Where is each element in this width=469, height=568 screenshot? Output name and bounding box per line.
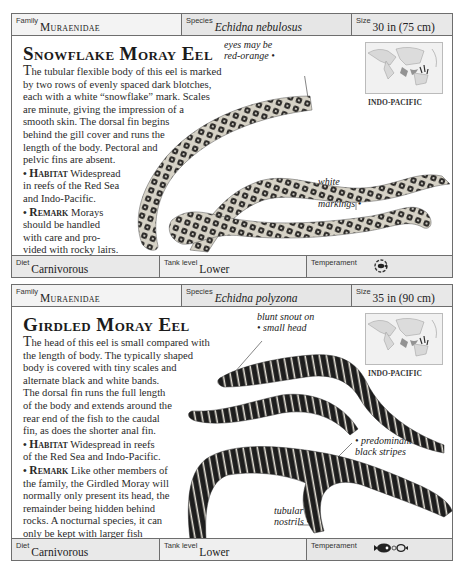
diet-value: Carnivorous: [31, 263, 88, 275]
habitat-label: Habitat: [29, 167, 67, 179]
species-card-girdled-moray: FamilyMuraenidae SpeciesEchidna polyzona…: [11, 284, 453, 561]
card-body: Snowflake Moray Eel The tubular flexible…: [12, 36, 452, 255]
family-field: FamilyMuraenidae: [12, 285, 181, 306]
size-label: Size: [356, 16, 371, 25]
size-field: Size35 in (90 cm): [351, 285, 452, 306]
habitat-label: Habitat: [29, 438, 67, 450]
tank-level-value: Lower: [199, 546, 229, 558]
large-fish-with-small-fish-icon: [373, 541, 409, 555]
species-label: Species: [186, 287, 213, 296]
tank-level-value: Lower: [199, 263, 229, 275]
tank-level-field: Tank levelLower: [159, 256, 306, 277]
diet-value: Carnivorous: [31, 546, 88, 558]
temperament-label: Temperament: [311, 258, 357, 267]
size-value: 30 in (75 cm): [373, 21, 435, 33]
family-label: Family: [16, 287, 38, 296]
girdled-moray-illustration: [182, 333, 454, 539]
family-field: FamilyMuraenidae: [12, 14, 181, 35]
card-body: Girdled Moray Eel The head of this eel i…: [12, 307, 452, 538]
dropcap: T: [23, 63, 32, 78]
annotation-snout: blunt snout on • small head: [257, 311, 314, 333]
family-value: Muraenidae: [40, 21, 100, 33]
snowflake-moray-illustration: [112, 76, 454, 258]
temperament-field: Temperament: [306, 539, 452, 560]
diet-label: Diet: [16, 258, 29, 267]
diet-label: Diet: [16, 541, 29, 550]
tank-level-field: Tank levelLower: [159, 539, 306, 560]
tank-level-label: Tank level: [164, 541, 197, 550]
size-field: Size30 in (75 cm): [351, 14, 452, 35]
size-value: 35 in (90 cm): [373, 292, 435, 304]
species-title: Snowflake Moray Eel: [23, 43, 213, 65]
single-fish-circle-icon: [373, 258, 389, 274]
species-value: Echidna nebulosus: [215, 21, 302, 33]
size-label: Size: [356, 287, 371, 296]
remark-label: Remark: [29, 206, 68, 218]
species-field: SpeciesEchidna nebulosus: [181, 14, 351, 35]
dropcap: T: [23, 334, 32, 349]
species-title: Girdled Moray Eel: [23, 314, 190, 336]
diet-field: DietCarnivorous: [12, 539, 159, 560]
annotation-eyes: eyes may be red-orange •: [224, 39, 275, 61]
remark-label: Remark: [29, 464, 68, 476]
family-label: Family: [16, 16, 38, 25]
temperament-label: Temperament: [311, 541, 357, 550]
family-value: Muraenidae: [40, 292, 100, 304]
card-footer: DietCarnivorous Tank levelLower Temperam…: [12, 538, 452, 560]
card-footer: DietCarnivorous Tank levelLower Temperam…: [12, 255, 452, 277]
card-header: FamilyMuraenidae SpeciesEchidna nebulosu…: [12, 14, 452, 36]
tank-level-label: Tank level: [164, 258, 197, 267]
species-label: Species: [186, 16, 213, 25]
species-value: Echidna polyzona: [215, 292, 298, 304]
card-header: FamilyMuraenidae SpeciesEchidna polyzona…: [12, 285, 452, 307]
species-card-snowflake-moray: FamilyMuraenidae SpeciesEchidna nebulosu…: [11, 13, 453, 278]
species-field: SpeciesEchidna polyzona: [181, 285, 351, 306]
diet-field: DietCarnivorous: [12, 256, 159, 277]
temperament-field: Temperament: [306, 256, 452, 277]
